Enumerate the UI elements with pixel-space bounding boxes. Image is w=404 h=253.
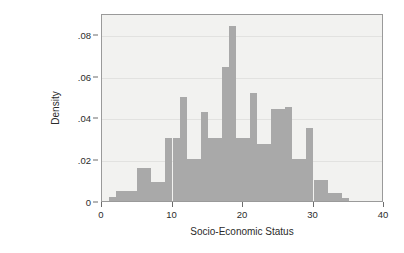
histogram-bar [264, 144, 271, 201]
histogram-bar [151, 182, 158, 201]
histogram-bar [243, 138, 250, 201]
histogram-bar [271, 109, 278, 201]
plot-area [101, 14, 383, 202]
y-tick-mark [93, 34, 98, 35]
x-tick-label: 10 [166, 209, 177, 220]
histogram-bars [102, 15, 382, 201]
x-tick-mark [242, 202, 243, 207]
histogram-bar [292, 159, 299, 201]
histogram-bar [285, 107, 292, 201]
histogram-bar [222, 67, 229, 201]
histogram-bar [137, 168, 144, 201]
histogram-bar [201, 112, 208, 201]
y-tick-label: .06 [78, 71, 91, 82]
histogram-bar [187, 159, 194, 201]
histogram-bar [116, 191, 123, 201]
y-axis-title: Density [50, 91, 61, 124]
histogram-bar [208, 138, 215, 201]
y-tick-mark [93, 76, 98, 77]
y-tick-label: .04 [78, 113, 91, 124]
y-tick-mark [93, 160, 98, 161]
histogram-bar [194, 159, 201, 201]
x-tick-mark [383, 202, 384, 207]
x-axis: 010203040 Socio-Economic Status [0, 202, 404, 253]
histogram-bar [328, 193, 335, 201]
histogram-bar [335, 193, 342, 201]
histogram-bar [144, 168, 151, 201]
histogram-bar [158, 182, 165, 201]
histogram-bar [306, 128, 313, 201]
histogram-bar [257, 144, 264, 201]
histogram-bar [180, 97, 187, 201]
x-axis-title: Socio-Economic Status [190, 226, 293, 237]
y-tick-label: .08 [78, 29, 91, 40]
histogram-figure: 0.02.04.06.08 Density 010203040 Socio-Ec… [0, 0, 404, 253]
x-tick-label: 0 [98, 209, 103, 220]
x-tick-mark [313, 202, 314, 207]
histogram-bar [215, 138, 222, 201]
histogram-bar [109, 197, 116, 201]
histogram-bar [229, 26, 236, 201]
x-tick-label: 20 [237, 209, 248, 220]
histogram-bar [250, 93, 257, 201]
histogram-bar [342, 198, 349, 201]
histogram-bar [165, 138, 172, 201]
x-tick-label: 40 [378, 209, 389, 220]
histogram-bar [123, 191, 130, 201]
histogram-bar [321, 180, 328, 201]
y-tick-label: .02 [78, 155, 91, 166]
histogram-bar [299, 159, 306, 201]
histogram-bar [278, 109, 285, 201]
histogram-bar [314, 180, 321, 201]
y-tick-mark [93, 118, 98, 119]
histogram-bar [173, 138, 180, 201]
histogram-bar [236, 138, 243, 201]
histogram-bar [130, 191, 137, 201]
x-tick-label: 30 [307, 209, 318, 220]
x-tick-mark [101, 202, 102, 207]
x-tick-mark [172, 202, 173, 207]
